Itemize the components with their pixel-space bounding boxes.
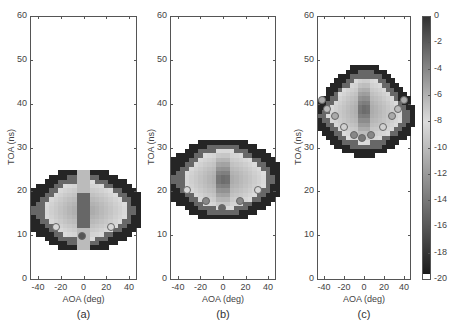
x-tick-label: -20	[334, 283, 354, 292]
x-tick-label: 0	[213, 283, 233, 292]
heatmap-cell	[275, 166, 280, 171]
colorbar-tick-label: -20	[434, 274, 447, 283]
panel-caption: (a)	[30, 308, 137, 320]
heatmap-cell	[410, 109, 415, 114]
x-tick-label: -20	[190, 283, 210, 292]
x-tick	[344, 16, 345, 19]
colorbar-tick	[428, 42, 431, 43]
heatmap-cell	[136, 214, 141, 219]
colorbar-tick	[428, 226, 431, 227]
heatmap-cell	[266, 201, 271, 206]
x-tick	[246, 16, 247, 19]
colorbar-tick	[428, 69, 431, 70]
y-tick	[408, 104, 411, 105]
colorbar-tick	[428, 253, 431, 254]
x-tick	[324, 276, 325, 279]
x-tick-label: 20	[374, 283, 394, 292]
heatmap-cell	[261, 205, 266, 210]
y-tick-label: 0	[14, 274, 27, 283]
y-tick	[273, 148, 276, 149]
heatmap-cell	[382, 149, 387, 154]
y-tick-label: 0	[301, 274, 314, 283]
heatmap-cell	[113, 241, 118, 246]
x-tick	[324, 16, 325, 19]
marker-dot	[323, 105, 331, 113]
y-tick	[134, 235, 137, 236]
y-tick	[170, 191, 173, 192]
x-tick-label: 20	[236, 283, 256, 292]
x-tick-label: -40	[168, 283, 188, 292]
y-tick	[134, 279, 137, 280]
y-tick-label: 60	[14, 11, 27, 20]
heatmap-cell	[275, 184, 280, 189]
y-tick	[170, 279, 173, 280]
x-axis-label: AOA (deg)	[317, 294, 411, 304]
x-tick	[129, 16, 130, 19]
heatmap-cell	[104, 245, 109, 250]
colorbar-tick	[428, 16, 431, 17]
y-tick-label: 10	[301, 230, 314, 239]
heatmap-cell	[136, 201, 141, 206]
y-tick-label: 50	[154, 55, 167, 64]
plot-panel-1	[30, 16, 137, 280]
y-tick	[408, 148, 411, 149]
x-tick	[178, 276, 179, 279]
y-tick	[317, 279, 320, 280]
y-tick	[134, 191, 137, 192]
colorbar-tick-label: -12	[434, 169, 447, 178]
colorbar-tick	[428, 174, 431, 175]
x-axis-label: AOA (deg)	[170, 294, 276, 304]
x-tick	[178, 16, 179, 19]
y-tick	[317, 104, 320, 105]
colorbar-tick-label: -4	[434, 64, 442, 73]
y-tick	[170, 104, 173, 105]
x-tick	[344, 276, 345, 279]
y-tick	[30, 279, 33, 280]
y-axis-label: TOA (ns)	[293, 122, 303, 172]
x-tick-label: 40	[119, 283, 139, 292]
colorbar-tick-label: 0	[434, 11, 439, 20]
y-tick-label: 10	[14, 230, 27, 239]
x-tick-label: -40	[314, 283, 334, 292]
y-tick	[30, 16, 33, 17]
y-tick	[30, 148, 33, 149]
panel-caption: (c)	[317, 308, 411, 320]
heatmap-cell	[406, 127, 411, 132]
x-tick-label: 40	[258, 283, 278, 292]
heatmap-cell	[410, 122, 415, 127]
heatmap-cell	[252, 210, 257, 215]
y-tick	[408, 191, 411, 192]
heatmap-cell	[275, 192, 280, 197]
y-tick	[317, 16, 320, 17]
heatmap-cell	[136, 197, 141, 202]
y-tick	[273, 235, 276, 236]
x-tick	[106, 276, 107, 279]
colorbar-tick-label: -10	[434, 143, 447, 152]
x-tick	[223, 16, 224, 19]
plot-panel-3	[317, 16, 411, 280]
x-tick-label: 40	[394, 283, 414, 292]
marker-dot	[379, 123, 387, 131]
heatmap-cell	[127, 232, 132, 237]
y-tick-label: 40	[14, 99, 27, 108]
y-tick	[30, 104, 33, 105]
x-tick	[268, 16, 269, 19]
y-tick	[170, 60, 173, 61]
x-tick	[106, 16, 107, 19]
heatmap-cell	[122, 236, 127, 241]
colorbar-tick-label: -16	[434, 221, 447, 230]
colorbar-tick	[428, 279, 431, 280]
y-tick-label: 20	[154, 186, 167, 195]
marker-dot	[394, 105, 402, 113]
heatmap-cell	[136, 210, 141, 215]
heatmap-cell	[410, 105, 415, 110]
colorbar-tick-label: -8	[434, 116, 442, 125]
x-tick-label: -40	[28, 283, 48, 292]
x-tick	[404, 276, 405, 279]
y-tick	[408, 235, 411, 236]
heatmap-cell	[390, 144, 395, 149]
marker-dot	[340, 123, 348, 131]
y-tick-label: 40	[154, 99, 167, 108]
marker-dot	[358, 134, 366, 142]
heatmap-cell	[402, 135, 407, 140]
